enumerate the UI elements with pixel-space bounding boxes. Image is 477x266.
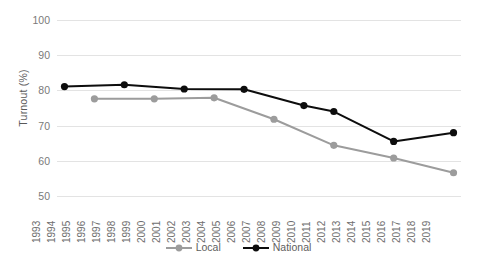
x-tick-label: 2015 <box>361 199 372 243</box>
data-point-national <box>390 138 397 145</box>
legend-label: Local <box>196 242 221 253</box>
x-tick-label: 2004 <box>196 199 207 243</box>
y-tick-label: 70 <box>24 121 50 131</box>
series-layer <box>57 20 461 196</box>
x-tick-label: 1996 <box>76 199 87 243</box>
data-point-local <box>211 94 218 101</box>
y-tick-label: 90 <box>24 50 50 60</box>
legend-item-local[interactable]: Local <box>166 242 221 253</box>
data-point-national <box>450 129 457 136</box>
data-point-national <box>330 108 337 115</box>
x-tick-label: 2018 <box>406 199 417 243</box>
x-tick-label: 2016 <box>376 199 387 243</box>
y-tick-label: 100 <box>24 15 50 25</box>
x-tick-label: 1995 <box>61 199 72 243</box>
x-tick-label: 2003 <box>181 199 192 243</box>
data-point-local <box>390 154 397 161</box>
x-tick-label: 2012 <box>316 199 327 243</box>
x-tick-label: 2001 <box>151 199 162 243</box>
x-tick-label: 2000 <box>136 199 147 243</box>
x-axis-tick-labels: 1993199419951996199719981999200020012002… <box>57 199 461 243</box>
x-tick-label: 2007 <box>241 199 252 243</box>
x-tick-label: 1993 <box>31 199 42 243</box>
data-point-local <box>270 116 277 123</box>
y-tick-label: 80 <box>24 85 50 95</box>
data-point-national <box>300 102 307 109</box>
x-tick-label: 2014 <box>346 199 357 243</box>
x-tick-label: 2010 <box>286 199 297 243</box>
data-point-local <box>91 95 98 102</box>
x-tick-label: 2011 <box>301 199 312 243</box>
x-tick-label: 2019 <box>421 199 432 243</box>
data-point-local <box>330 142 337 149</box>
legend-item-national[interactable]: National <box>243 242 312 253</box>
gridline <box>57 196 461 197</box>
legend-label: National <box>273 242 312 253</box>
x-tick-label: 2009 <box>271 199 282 243</box>
data-point-national <box>121 81 128 88</box>
data-point-national <box>181 85 188 92</box>
legend-swatch-icon <box>243 243 269 253</box>
data-point-national <box>61 83 68 90</box>
data-point-national <box>240 86 247 93</box>
x-tick-label: 2017 <box>391 199 402 243</box>
turnout-line-chart: Turnout (%) 5060708090100 19931994199519… <box>0 0 477 266</box>
x-tick-label: 1994 <box>46 199 57 243</box>
x-tick-label: 1998 <box>106 199 117 243</box>
y-axis-tick-labels: 5060708090100 <box>22 20 50 196</box>
x-tick-label: 2013 <box>331 199 342 243</box>
data-point-local <box>151 95 158 102</box>
x-tick-label: 2006 <box>226 199 237 243</box>
data-point-local <box>450 169 457 176</box>
series-line-local <box>94 98 453 173</box>
x-tick-label: 1999 <box>121 199 132 243</box>
x-tick-label: 2005 <box>211 199 222 243</box>
legend-swatch-icon <box>166 243 192 253</box>
plot-area <box>57 20 461 196</box>
x-tick-label: 1997 <box>91 199 102 243</box>
chart-legend: LocalNational <box>0 242 477 253</box>
x-tick-label: 2008 <box>256 199 267 243</box>
y-tick-label: 60 <box>24 156 50 166</box>
x-tick-label: 2002 <box>166 199 177 243</box>
